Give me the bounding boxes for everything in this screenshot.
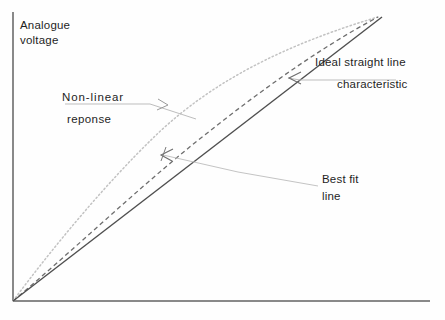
annotation-bestfit-line1: Best fit xyxy=(322,172,359,187)
diagram-canvas xyxy=(0,0,445,320)
annotation-best-fit-line: Best fit line xyxy=(322,172,359,204)
annotation-ideal-line1: Ideal straight line xyxy=(315,55,408,70)
annotation-nonlinear-response: Non-linear reponse xyxy=(62,90,124,127)
annotation-nonlinear-line1: Non-linear xyxy=(62,90,124,105)
analogue-voltage-diagram: Analogue voltage Non-linear reponse Idea… xyxy=(0,0,445,320)
annotation-bestfit-line2: line xyxy=(322,189,359,204)
annotation-nonlinear-line2: reponse xyxy=(67,112,124,127)
leader-line-bestfit xyxy=(163,155,318,186)
leader-bestfit xyxy=(161,147,318,186)
y-axis-label: Analogue voltage xyxy=(20,18,70,48)
y-axis-label-line1: Analogue xyxy=(20,18,70,33)
annotation-ideal-straight-line: Ideal straight line characteristic xyxy=(315,55,408,92)
y-axis-label-line2: voltage xyxy=(20,33,70,48)
annotation-ideal-line2: characteristic xyxy=(337,77,408,92)
arrowhead-bestfit-tick-icon xyxy=(161,147,166,161)
